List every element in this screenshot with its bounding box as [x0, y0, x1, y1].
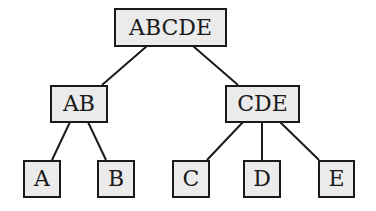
node-ab: AB — [50, 85, 108, 123]
edge-abcde-ab — [102, 46, 147, 85]
edge-ab-b — [88, 122, 106, 160]
edge-cde-c — [207, 122, 243, 160]
node-abcde: ABCDE — [114, 8, 227, 47]
node-cde: CDE — [225, 85, 300, 123]
node-d: D — [243, 160, 281, 198]
edge-cde-e — [280, 122, 319, 160]
node-b: B — [97, 160, 135, 198]
node-a: A — [23, 160, 61, 198]
node-e: E — [318, 160, 355, 198]
node-c: C — [172, 160, 210, 198]
edge-abcde-cde — [193, 46, 238, 85]
edge-ab-a — [52, 122, 70, 160]
